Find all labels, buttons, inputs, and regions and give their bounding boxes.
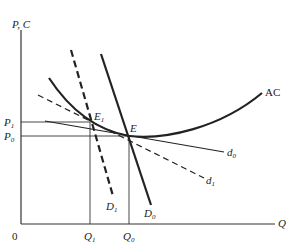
e-point-label: E xyxy=(129,122,137,134)
ac-label: AC xyxy=(265,86,280,98)
D1-label: D1 xyxy=(105,200,117,214)
q1-label: Q1 xyxy=(84,230,95,244)
p1-label: P1 xyxy=(3,116,14,130)
D0-label: D0 xyxy=(143,207,156,221)
q0-label: Q0 xyxy=(123,230,135,244)
d0-label: d0 xyxy=(227,146,237,160)
y-axis-label: P, C xyxy=(11,18,31,30)
diagram-canvas: P, C Q 0 P1 P0 Q1 Q0 E1 E AC d0 d1 D1 D0 xyxy=(0,0,296,246)
d1-demand-curve xyxy=(38,95,204,178)
e1-point-label: E1 xyxy=(93,110,104,124)
origin-label: 0 xyxy=(12,230,18,242)
monopolistic-competition-diagram: P, C Q 0 P1 P0 Q1 Q0 E1 E AC d0 d1 D1 D0 xyxy=(0,0,296,246)
p0-label: P0 xyxy=(3,130,15,144)
d1-label: d1 xyxy=(206,174,215,188)
x-axis-label: Q xyxy=(278,217,286,229)
